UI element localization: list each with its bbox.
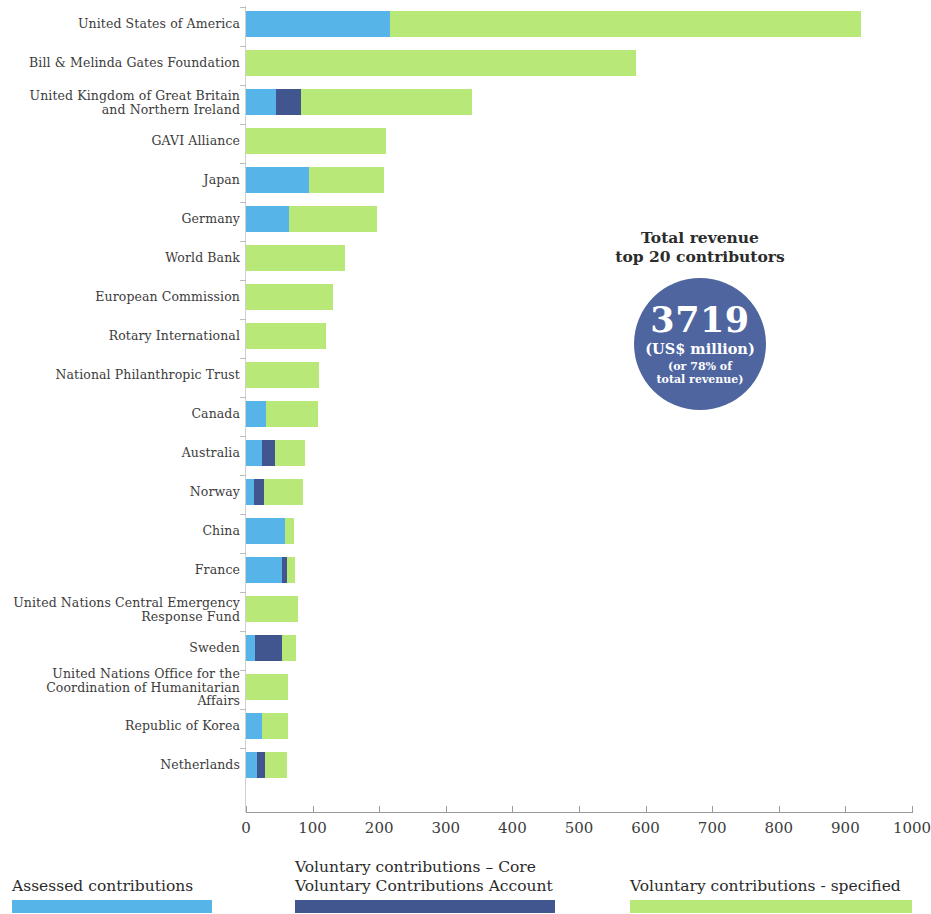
category-label: France bbox=[0, 563, 246, 577]
chart-row: Netherlands bbox=[0, 752, 922, 778]
category-label: Norway bbox=[0, 485, 246, 499]
callout-title: Total revenue top 20 contributors bbox=[600, 228, 800, 266]
bar-segment-specified bbox=[246, 362, 319, 388]
category-tick bbox=[240, 163, 246, 164]
x-axis-tick-label: 0 bbox=[241, 819, 251, 837]
bar-segment-core bbox=[262, 440, 275, 466]
callout-subtext: (or 78% of total revenue) bbox=[656, 361, 743, 386]
x-axis-tick-label: 500 bbox=[565, 819, 594, 837]
bar-track bbox=[246, 557, 912, 583]
bar-segment-specified bbox=[266, 401, 318, 427]
category-tick bbox=[240, 631, 246, 632]
bar-segment-specified bbox=[246, 50, 636, 76]
bar-segment-assessed bbox=[246, 401, 266, 427]
bar-segment-core bbox=[276, 89, 301, 115]
chart-row: Japan bbox=[0, 167, 922, 193]
bar-segment-specified bbox=[246, 128, 386, 154]
category-tick bbox=[240, 124, 246, 125]
category-label: Japan bbox=[0, 173, 246, 187]
bar-segment-specified bbox=[262, 713, 288, 739]
chart-row: GAVI Alliance bbox=[0, 128, 922, 154]
chart-row: China bbox=[0, 518, 922, 544]
bar-track bbox=[246, 128, 912, 154]
bar-segment-specified bbox=[301, 89, 472, 115]
legend-label-specified: Voluntary contributions - specified bbox=[630, 858, 912, 896]
bar-track bbox=[246, 89, 912, 115]
legend-label-core: Voluntary contributions – Core Voluntary… bbox=[295, 858, 555, 896]
bar-segment-core bbox=[257, 752, 264, 778]
bar-segment-core bbox=[255, 635, 282, 661]
bar-track bbox=[246, 479, 912, 505]
bar-segment-assessed bbox=[246, 440, 262, 466]
chart-row: Australia bbox=[0, 440, 922, 466]
category-tick bbox=[240, 46, 246, 47]
bar-segment-specified bbox=[287, 557, 295, 583]
bar-track bbox=[246, 362, 912, 388]
bar-segment-assessed bbox=[246, 713, 262, 739]
x-axis-tick-label: 900 bbox=[831, 819, 860, 837]
category-label: United States of America bbox=[0, 17, 246, 31]
category-tick bbox=[240, 241, 246, 242]
x-axis: 01002003004005006007008009001000 bbox=[246, 812, 912, 813]
category-tick bbox=[240, 670, 246, 671]
bar-segment-core bbox=[254, 479, 264, 505]
x-axis-tick bbox=[779, 806, 780, 813]
category-tick bbox=[240, 7, 246, 8]
category-tick bbox=[240, 592, 246, 593]
category-label: World Bank bbox=[0, 251, 246, 265]
bar-segment-specified bbox=[285, 518, 294, 544]
bar-segment-specified bbox=[265, 752, 287, 778]
legend-item-assessed: Assessed contributions bbox=[12, 858, 212, 913]
x-axis-tick-label: 1000 bbox=[893, 819, 931, 837]
x-axis-tick-label: 300 bbox=[431, 819, 460, 837]
category-label: National Philanthropic Trust bbox=[0, 368, 246, 382]
x-axis-tick-label: 700 bbox=[698, 819, 727, 837]
category-tick bbox=[240, 748, 246, 749]
chart-row: France bbox=[0, 557, 922, 583]
bar-segment-assessed bbox=[246, 89, 276, 115]
x-axis-tick-label: 400 bbox=[498, 819, 527, 837]
category-tick bbox=[240, 358, 246, 359]
x-axis-tick-label: 200 bbox=[365, 819, 394, 837]
x-axis-tick bbox=[845, 806, 846, 813]
bar-track bbox=[246, 50, 912, 76]
legend-swatch-specified bbox=[630, 900, 912, 913]
category-tick bbox=[240, 202, 246, 203]
chart-row: United States of America bbox=[0, 11, 922, 37]
chart-row: Norway bbox=[0, 479, 922, 505]
bar-track bbox=[246, 206, 912, 232]
legend-item-core: Voluntary contributions – Core Voluntary… bbox=[295, 858, 555, 913]
legend-item-specified: Voluntary contributions - specified bbox=[630, 858, 912, 913]
legend-swatch-core bbox=[295, 900, 555, 913]
category-tick bbox=[240, 85, 246, 86]
category-label: United Nations Central Emergency Respons… bbox=[0, 596, 246, 623]
bar-segment-assessed bbox=[246, 11, 390, 37]
category-tick bbox=[240, 436, 246, 437]
bar-segment-assessed bbox=[246, 479, 254, 505]
bar-segment-assessed bbox=[246, 557, 282, 583]
bar-segment-assessed bbox=[246, 752, 257, 778]
bar-segment-assessed bbox=[246, 206, 289, 232]
category-label: GAVI Alliance bbox=[0, 134, 246, 148]
bar-track bbox=[246, 284, 912, 310]
category-label: Germany bbox=[0, 212, 246, 226]
category-label: Canada bbox=[0, 407, 246, 421]
chart-row: United Nations Central Emergency Respons… bbox=[0, 596, 922, 622]
bar-segment-specified bbox=[282, 635, 296, 661]
total-revenue-callout: Total revenue top 20 contributors 3719 (… bbox=[600, 228, 800, 410]
legend-label-assessed: Assessed contributions bbox=[12, 858, 212, 896]
category-label: Republic of Korea bbox=[0, 719, 246, 733]
bar-track bbox=[246, 674, 912, 700]
chart-row: Sweden bbox=[0, 635, 922, 661]
chart-legend: Assessed contributions Voluntary contrib… bbox=[0, 858, 922, 914]
bar-track bbox=[246, 596, 912, 622]
bar-segment-assessed bbox=[246, 518, 285, 544]
bar-track bbox=[246, 440, 912, 466]
bar-segment-specified bbox=[246, 596, 298, 622]
category-tick bbox=[240, 397, 246, 398]
bar-segment-specified bbox=[390, 11, 862, 37]
bar-segment-specified bbox=[246, 245, 345, 271]
bar-segment-assessed bbox=[246, 167, 309, 193]
bar-segment-specified bbox=[246, 284, 333, 310]
